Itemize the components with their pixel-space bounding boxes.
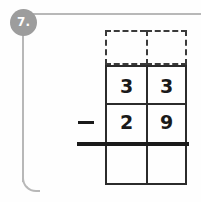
subtrahend-cell-ones: 9 xyxy=(146,105,187,144)
minuend-cell-tens: 3 xyxy=(105,65,146,105)
subtraction-grid: 3 3 2 9 xyxy=(105,30,187,185)
table-row: 2 9 xyxy=(105,105,187,144)
carry-cell-ones[interactable] xyxy=(146,30,187,65)
answer-cell-ones[interactable] xyxy=(146,144,187,185)
subtrahend-cell-tens: 2 xyxy=(105,105,146,144)
minuend-cell-ones: 3 xyxy=(146,65,187,105)
worksheet-question-panel: 7. 3 3 2 9 xyxy=(0,0,201,202)
answer-cell-tens[interactable] xyxy=(105,144,146,185)
left-margin-rule xyxy=(22,22,24,182)
table-row xyxy=(105,30,187,65)
left-margin-rule-curve xyxy=(22,170,40,192)
carry-cell-tens[interactable] xyxy=(105,30,146,65)
header-rule xyxy=(32,13,201,15)
table-row: 3 3 xyxy=(105,65,187,105)
question-number-badge: 7. xyxy=(10,9,37,36)
answer-rule xyxy=(77,142,189,146)
minus-sign-icon xyxy=(78,121,94,124)
table-row xyxy=(105,144,187,185)
